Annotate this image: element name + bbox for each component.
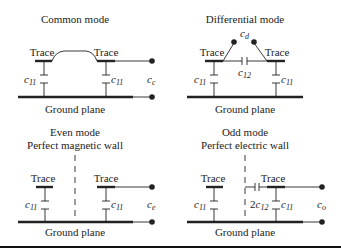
- panel-title: Differential mode: [206, 13, 284, 25]
- panel-title: Even mode: [50, 126, 100, 138]
- ground-label: Ground plane: [45, 226, 105, 238]
- capacitor-c11-left: [40, 61, 48, 97]
- port-terminal-top: [319, 184, 325, 190]
- trace-label-left: Trace: [201, 172, 226, 184]
- trace-label-left: Trace: [200, 46, 225, 58]
- panel-odd-mode: Odd mode Perfect electric wall Trace Tra…: [187, 126, 326, 238]
- connection-arc: [52, 51, 97, 61]
- panel-title: Common mode: [41, 13, 109, 25]
- port-terminal-left: [231, 39, 237, 45]
- ground-label: Ground plane: [45, 103, 105, 115]
- port-label: cc: [147, 73, 156, 87]
- port-lead-left: [223, 43, 234, 61]
- panel-subtitle: Perfect electric wall: [201, 139, 289, 151]
- port-terminal-bottom: [149, 219, 155, 225]
- trace-label-left: Trace: [31, 172, 56, 184]
- port-terminal-right: [251, 39, 257, 45]
- capacitor-c11-left: [210, 187, 218, 222]
- port-terminal-bottom: [319, 219, 325, 225]
- cap-label-left: c11: [25, 198, 37, 212]
- cap-label-left: c11: [24, 73, 36, 87]
- port-label: cd: [240, 27, 250, 41]
- cap-label-mutual: 2c12: [250, 198, 268, 212]
- port-label: co: [317, 198, 326, 212]
- panel-even-mode: Even mode Perfect magnetic wall Trace Tr…: [18, 126, 156, 238]
- capacitor-2c12: [245, 183, 267, 191]
- trace-label-right: Trace: [94, 46, 119, 58]
- panel-common-mode: Common mode Trace Trace c11 c11 cc: [18, 13, 156, 115]
- trace-label-left: Trace: [30, 46, 55, 58]
- capacitor-c11-right: [102, 61, 110, 97]
- cap-label-right: c11: [111, 73, 123, 87]
- capacitor-c11-right: [272, 187, 280, 222]
- capacitor-c11-right: [102, 187, 110, 222]
- capacitor-c11-right: [272, 61, 280, 97]
- panel-differential-mode: Differential mode Trace Trace cd c12 c11: [187, 13, 303, 115]
- port-label: ce: [147, 198, 156, 212]
- cap-label-left: c11: [194, 198, 206, 212]
- port-terminal-top: [149, 184, 155, 190]
- trace-label-right: Trace: [261, 172, 286, 184]
- cap-label-right: c11: [281, 73, 293, 87]
- panel-title: Odd mode: [222, 126, 268, 138]
- cap-label-mutual: c12: [238, 66, 251, 80]
- capacitor-c12: [223, 57, 267, 65]
- trace-label-right: Trace: [265, 46, 290, 58]
- trace-label-right: Trace: [94, 172, 119, 184]
- capacitor-c11-left: [41, 187, 49, 222]
- ground-label: Ground plane: [215, 103, 275, 115]
- port-terminal-bottom: [149, 94, 155, 100]
- mode-diagram: Common mode Trace Trace c11 c11 cc: [0, 0, 341, 251]
- panel-subtitle: Perfect magnetic wall: [27, 139, 123, 151]
- cap-label-right: c11: [111, 198, 123, 212]
- ground-label: Ground plane: [215, 226, 275, 238]
- cap-label-right: c11: [281, 198, 293, 212]
- port-terminal-top: [149, 58, 155, 64]
- capacitor-c11-left: [210, 61, 218, 97]
- cap-label-left: c11: [194, 73, 206, 87]
